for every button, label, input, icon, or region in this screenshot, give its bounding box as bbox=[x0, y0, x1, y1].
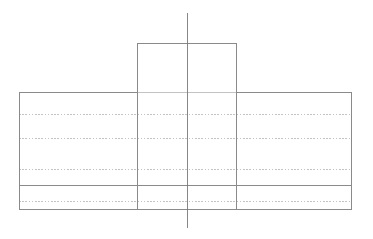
main-body-rectangle bbox=[19, 92, 352, 210]
technical-drawing-canvas bbox=[0, 0, 373, 239]
drawing-svg-root bbox=[0, 0, 373, 239]
upper-flange-rectangle bbox=[137, 43, 237, 209]
hidden-lines-group bbox=[19, 115, 352, 202]
